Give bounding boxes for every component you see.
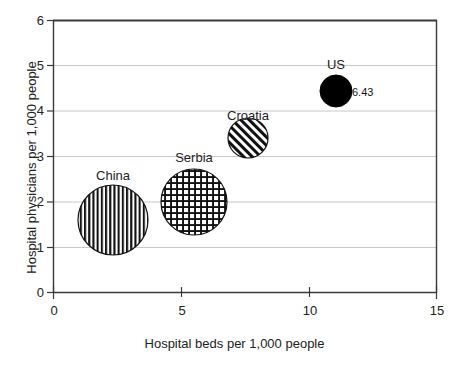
bubble-china [78,185,148,255]
bubble-serbia [161,169,227,235]
bubble-croatia [228,118,268,158]
y-axis-ticks [47,21,53,293]
bubble-value-label-us: 6.43 [352,86,373,98]
bubble-label-us: US [319,57,353,72]
x-axis-title: Hospital beds per 1,000 people [0,336,469,351]
bubble-chart: 6 5 4 3 2 1 0 0 5 10 15 Hospital beds pe… [0,0,469,368]
bubble-us [320,75,352,107]
bubble-label-croatia: Croatia [218,108,278,123]
x-tick-label-15: 15 [417,303,457,318]
y-tick-label-6: 6 [22,13,44,28]
bubble-label-serbia: Serbia [164,150,224,165]
x-tick-label-5: 5 [162,303,202,318]
x-tick-label-10: 10 [290,303,330,318]
bubble-label-china: China [83,168,143,183]
x-tick-label-0: 0 [34,303,74,318]
y-axis-title: Hospital physicians per 1,000 people [24,43,39,293]
